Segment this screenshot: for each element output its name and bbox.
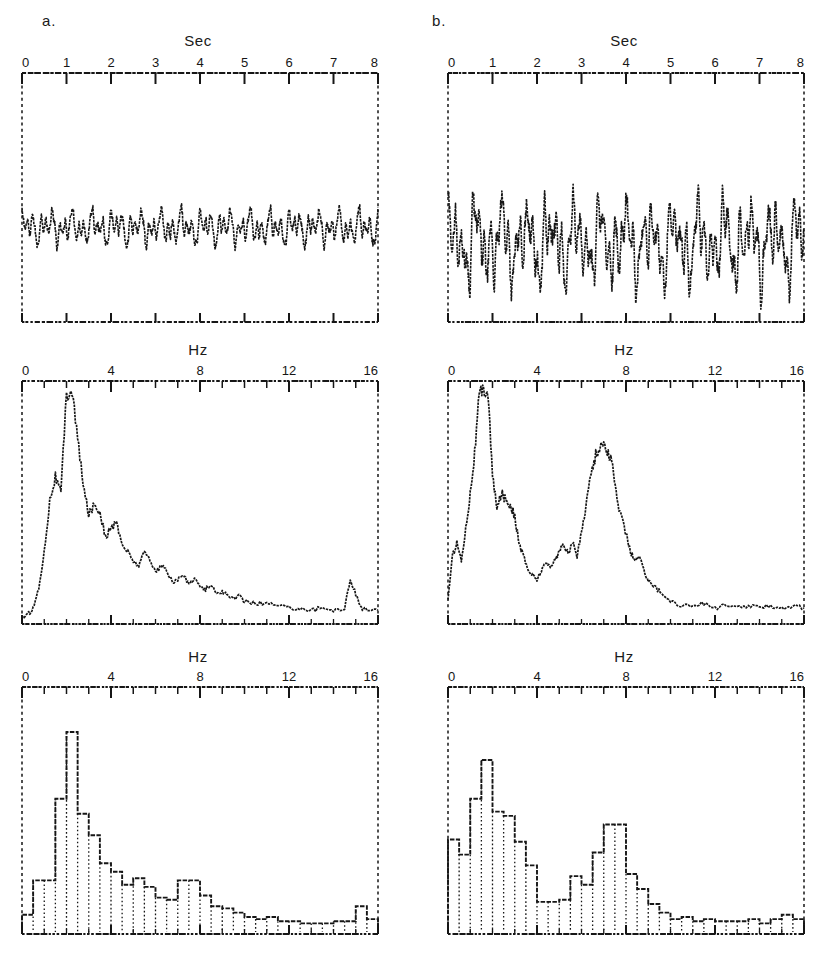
timeseries-trace (22, 204, 378, 251)
tick-label: 2 (107, 55, 114, 70)
tick-label: 0 (22, 669, 29, 684)
tick-label: 16 (364, 363, 378, 378)
timeseries-b-svg: 012345678 (440, 52, 812, 340)
panel-label-b: b. (432, 12, 447, 29)
tick-label: 4 (622, 55, 629, 70)
tick-label: 12 (282, 363, 296, 378)
panel-label-a: a. (42, 12, 57, 29)
tick-label: 16 (790, 669, 804, 684)
tick-label: 2 (533, 55, 540, 70)
tick-label: 8 (622, 669, 629, 684)
axis-title-hz-spectrum-b: Hz (440, 341, 808, 358)
tick-label: 3 (152, 55, 159, 70)
tick-label: 7 (330, 55, 337, 70)
axis-title-hz-spectrum-a: Hz (14, 341, 382, 358)
histogram-a-svg: 0481216 (14, 666, 386, 948)
tick-label: 4 (196, 55, 203, 70)
tick-label: 12 (282, 669, 296, 684)
tick-label: 4 (533, 363, 540, 378)
spectrum-trace (22, 391, 378, 618)
tick-label: 8 (196, 669, 203, 684)
tick-label: 4 (533, 669, 540, 684)
tick-label: 7 (756, 55, 763, 70)
axis-title-sec-b: Sec (440, 32, 808, 49)
tick-label: 3 (578, 55, 585, 70)
spectrum-b-svg: 0481216 (440, 360, 812, 638)
histogram-b-svg: 0481216 (440, 666, 812, 948)
timeseries-trace (448, 184, 804, 309)
tick-label: 4 (107, 363, 114, 378)
tick-label: 8 (622, 363, 629, 378)
plot-spectrum-b: 0481216 (440, 360, 812, 638)
tick-label: 5 (241, 55, 248, 70)
plot-timeseries-b: 012345678 (440, 52, 812, 340)
tick-label: 0 (22, 55, 29, 70)
tick-label: 0 (22, 363, 29, 378)
tick-label: 4 (107, 669, 114, 684)
tick-label: 16 (364, 669, 378, 684)
tick-label: 1 (489, 55, 496, 70)
histogram-outline (22, 732, 378, 932)
axis-title-sec-a: Sec (14, 32, 382, 49)
timeseries-a-svg: 012345678 (14, 52, 386, 340)
tick-label: 8 (196, 363, 203, 378)
plot-timeseries-a: 012345678 (14, 52, 386, 340)
tick-label: 16 (790, 363, 804, 378)
tick-label: 6 (711, 55, 718, 70)
tick-label: 8 (797, 55, 804, 70)
tick-label: 12 (708, 669, 722, 684)
tick-label: 1 (63, 55, 70, 70)
figure-root: a. b. Sec Sec 012345678 012345678 Hz Hz … (0, 0, 824, 958)
axis-title-hz-histogram-b: Hz (440, 648, 808, 665)
tick-label: 8 (371, 55, 378, 70)
spectrum-a-svg: 0481216 (14, 360, 386, 638)
tick-label: 0 (448, 55, 455, 70)
tick-label: 0 (448, 669, 455, 684)
tick-label: 5 (667, 55, 674, 70)
tick-label: 0 (448, 363, 455, 378)
tick-label: 12 (708, 363, 722, 378)
spectrum-trace (448, 385, 804, 609)
tick-label: 6 (285, 55, 292, 70)
plot-histogram-b: 0481216 (440, 666, 812, 948)
plot-histogram-a: 0481216 (14, 666, 386, 948)
plot-spectrum-a: 0481216 (14, 360, 386, 638)
axis-title-hz-histogram-a: Hz (14, 648, 382, 665)
